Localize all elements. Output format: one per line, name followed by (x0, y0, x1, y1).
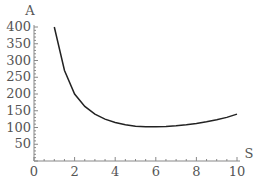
y-tick-label: 300 (6, 53, 31, 68)
y-tick-label: 350 (6, 36, 31, 51)
x-tick-label: 2 (70, 164, 78, 176)
chart: 024681050100150200250300350400AS (0, 0, 256, 176)
x-tick-label: 6 (152, 164, 160, 176)
line-chart: 024681050100150200250300350400AS (0, 0, 256, 176)
y-tick-label: 150 (6, 103, 31, 118)
x-tick-label: 8 (192, 164, 200, 176)
x-tick-label: 4 (111, 164, 119, 176)
y-tick-label: 250 (6, 69, 31, 84)
data-line (54, 27, 237, 127)
x-tick-label: 10 (229, 164, 246, 176)
x-axis-label: S (245, 146, 254, 161)
y-axis-label: A (24, 3, 35, 18)
y-tick-label: 200 (6, 86, 31, 101)
y-tick-label: 400 (6, 19, 31, 34)
y-tick-label: 100 (6, 120, 31, 135)
x-tick-label: 0 (30, 164, 38, 176)
y-tick-label: 50 (14, 136, 31, 151)
